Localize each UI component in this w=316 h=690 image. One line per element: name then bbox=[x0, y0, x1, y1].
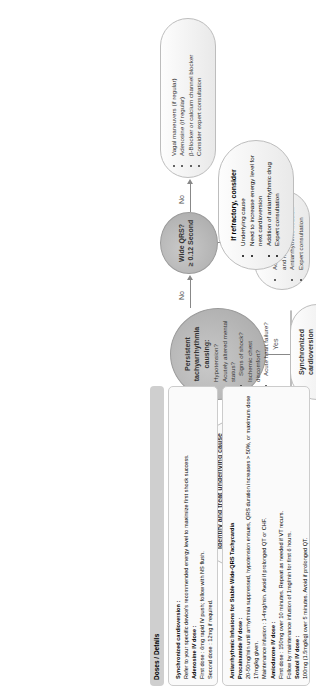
adenosine-dose-1: First dose : 6mg rapid IV push; follow w… bbox=[198, 393, 206, 679]
sync-dose-title: Synchronized cardioversion : bbox=[175, 601, 181, 679]
narrow-item: Consider expert consultation bbox=[195, 31, 203, 156]
doses-header: Doses / Details bbox=[150, 386, 164, 686]
persistent-item: Hypotension? bbox=[212, 317, 220, 382]
connector bbox=[218, 242, 254, 243]
persistent-item: Ischemic chest discomfort? bbox=[246, 317, 263, 382]
sotalol-dose: 100mg (1.5mg/kg) over 5 minutes. Avoid i… bbox=[301, 393, 309, 679]
narrow-qrs-actions-node: Vagal maneuvers (if regular) Adenosine (… bbox=[160, 18, 216, 178]
sync-dose-text: Refer to your specific device's recommen… bbox=[182, 393, 190, 679]
connector bbox=[266, 354, 290, 355]
consider-title: Consider bbox=[261, 201, 270, 279]
consider-item: Expert consultation bbox=[297, 201, 305, 270]
narrow-item: β-Blocker or calcium channel blocker bbox=[187, 31, 195, 156]
no-label: No bbox=[178, 291, 185, 300]
antiarrhythmic-dose-panel: Antiarrhythmic Infusions for Stable Wide… bbox=[222, 386, 310, 686]
persistent-item: Acute heart failure? bbox=[262, 317, 270, 376]
arrow-icon bbox=[187, 179, 193, 184]
cardioversion-dose-panel: Synchronized cardioversion : Refer to yo… bbox=[168, 386, 218, 686]
persistent-item: Signs of shock? bbox=[237, 317, 245, 376]
amiodarone-dose-1: First dose : 150mg over 10 minutes. Repe… bbox=[277, 393, 285, 679]
consider-item: Antiarrhythmic infusion bbox=[288, 201, 296, 270]
narrow-item: Adenosine (if regular) bbox=[178, 31, 186, 156]
consider-item: Adenosine only if regular and monomorphi… bbox=[271, 201, 288, 270]
arrow-icon bbox=[187, 275, 193, 280]
connector bbox=[190, 278, 191, 308]
sync-title: Synchronized cardioversion bbox=[297, 315, 316, 389]
procainamide-dose-1: 20-50mg/min until arrhythmia suppressed,… bbox=[244, 393, 260, 679]
wide-qrs-threshold: ≥ 0.12 Second bbox=[186, 213, 195, 273]
connector bbox=[190, 182, 191, 212]
consider-node: Consider Adenosine only if regular and m… bbox=[254, 190, 310, 290]
narrow-item: Vagal maneuvers (if regular) bbox=[170, 31, 178, 156]
wide-qrs-node: Wide QRS? ≥ 0.12 Second bbox=[160, 212, 218, 274]
adenosine-dose-2: Second dose : 12mg if required. bbox=[206, 393, 214, 679]
sotalol-title: Sotalol IV dose : bbox=[294, 635, 300, 679]
amiodarone-dose-2: Follow by maintenance infusion of 1mg/mi… bbox=[285, 393, 293, 679]
antiarrhythmic-title: Antiarrhythmic Infusions for Stable Wide… bbox=[229, 523, 235, 679]
procainamide-dose-2: Maintenance infusion : 1-4mg/min. Avoid … bbox=[260, 393, 268, 679]
procainamide-title: Procainamide IV dose : bbox=[237, 617, 243, 679]
amiodarone-title: Amiodarone IV dose : bbox=[270, 622, 276, 680]
doses-section: Doses / Details Synchronized cardioversi… bbox=[150, 380, 310, 686]
no-label: No bbox=[178, 195, 185, 204]
adenosine-dose-title: Adenosine IV dose : bbox=[191, 626, 197, 679]
yes-label: Yes bbox=[230, 227, 237, 238]
wide-qrs-title: Wide QRS? bbox=[177, 213, 186, 273]
yes-label: Yes bbox=[272, 339, 279, 350]
persistent-item: Acutely altered mental status? bbox=[221, 317, 238, 382]
